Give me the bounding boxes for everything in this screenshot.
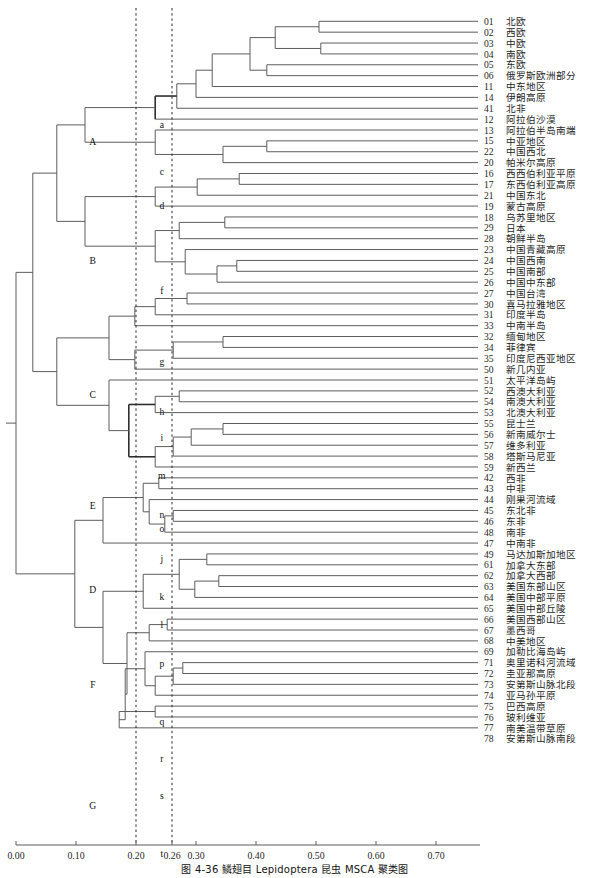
- cluster-label-q: q: [159, 716, 164, 727]
- leaf-name: 北澳大利亚: [506, 407, 556, 418]
- leaf-name: 中国西北: [506, 146, 546, 157]
- leaf-name: 帕米尔高原: [506, 157, 556, 168]
- leaf-name: 中国西南: [506, 255, 546, 266]
- axis-tick-label: 0.10: [67, 850, 84, 861]
- leaf-id: 18: [484, 212, 494, 223]
- axis-tick-label: 0.30: [187, 850, 204, 861]
- axis-tick-label: 0.40: [247, 850, 264, 861]
- leaf-id: 74: [484, 690, 494, 701]
- leaf-name: 加勒比海岛屿: [506, 646, 566, 657]
- cluster-label-h: h: [159, 406, 164, 417]
- leaf-id: 12: [484, 114, 494, 125]
- leaf-id: 75: [484, 701, 494, 712]
- axis-tick-label: 0.26: [163, 850, 180, 861]
- cluster-label-j: j: [159, 553, 163, 564]
- leaf-name: 刚果河流域: [506, 494, 556, 505]
- leaf-id: 20: [484, 157, 494, 168]
- cluster-label-C: C: [90, 389, 96, 400]
- leaf-name: 东西伯利亚高原: [506, 179, 576, 190]
- cluster-label-k: k: [159, 591, 164, 602]
- leaf-name: 西澳大利亚: [506, 386, 556, 397]
- axis-tick-label: 0.20: [127, 850, 144, 861]
- leaf-name: 南美温带草原: [506, 723, 566, 734]
- leaf-name: 维多利亚: [506, 440, 546, 451]
- dendrogram-canvas: AacBdfCghiEmnoDjklFpqrsGt 01北欧02西欧03中欧04…: [0, 0, 590, 878]
- cluster-label-g: g: [159, 356, 164, 367]
- cluster-label-l: l: [160, 619, 163, 630]
- leaf-id: 44: [484, 494, 494, 505]
- leaf-id: 27: [484, 288, 494, 299]
- leaf-name: 东北非: [506, 505, 536, 516]
- leaf-name: 马达加斯加地区: [506, 549, 576, 560]
- leaf-id: 65: [484, 603, 494, 614]
- leaf-id: 50: [484, 364, 494, 375]
- cluster-label-f: f: [160, 285, 164, 296]
- cluster-label-D: D: [89, 584, 96, 595]
- leaf-name: 西欧: [506, 27, 526, 38]
- leaf-name: 美国西部山区: [506, 614, 566, 625]
- leaf-id: 26: [484, 277, 494, 288]
- leaf-id: 51: [484, 375, 494, 386]
- leaf-name: 喜马拉雅地区: [506, 299, 566, 310]
- leaf-id: 49: [484, 549, 494, 560]
- cluster-label-a: a: [160, 119, 165, 130]
- leaf-name: 美国中部丘陵: [506, 603, 566, 614]
- leaf-id: 68: [484, 635, 494, 646]
- cluster-label-n: n: [159, 509, 164, 520]
- leaf-name: 中欧: [506, 38, 526, 49]
- cluster-label-d: d: [159, 200, 164, 211]
- leaf-id: 58: [484, 451, 494, 462]
- leaf-id: 41: [484, 103, 494, 114]
- leaf-id: 71: [484, 657, 494, 668]
- leaf-name: 中国南部: [506, 266, 546, 277]
- leaf-name: 安第斯山脉南段: [506, 733, 576, 744]
- axis-tick-label: 0.70: [427, 850, 444, 861]
- leaf-name: 加拿大西部: [506, 570, 556, 581]
- leaf-id: 05: [484, 59, 494, 70]
- axis-tick-label: 0.60: [367, 850, 384, 861]
- leaf-name: 美国中部平原: [506, 592, 566, 603]
- dendrogram-links: [6, 21, 478, 728]
- leaf-name: 塔斯马尼亚: [506, 451, 556, 462]
- leaf-id: 76: [484, 712, 494, 723]
- leaf-name: 乌苏里地区: [506, 212, 556, 223]
- leaf-id: 54: [484, 396, 494, 407]
- cluster-label-s: s: [160, 790, 164, 801]
- leaf-name: 阿拉伯半岛南端: [506, 125, 576, 136]
- leaf-name: 中东地区: [506, 81, 546, 92]
- leaf-id: 73: [484, 679, 494, 690]
- figure-caption: 图 4-36 鳞翅目 Lepidoptera 昆虫 MSCA 聚类图: [0, 861, 590, 876]
- leaf-id: 34: [484, 342, 494, 353]
- leaf-id: 13: [484, 125, 494, 136]
- cut-lines-group: [136, 8, 172, 843]
- leaf-id: 69: [484, 646, 494, 657]
- leaf-id: 21: [484, 190, 494, 201]
- leaf-id: 48: [484, 527, 494, 538]
- leaf-name: 伊朗高原: [506, 92, 546, 103]
- cluster-label-m: m: [158, 470, 166, 481]
- leaf-name: 美国东部山区: [506, 581, 566, 592]
- leaf-id: 30: [484, 299, 494, 310]
- leaf-id: 01: [484, 16, 494, 27]
- leaf-name: 亚马孙平原: [506, 690, 556, 701]
- leaf-id: 62: [484, 570, 494, 581]
- leaf-id: 28: [484, 233, 494, 244]
- leaf-id: 17: [484, 179, 494, 190]
- leaf-id: 33: [484, 320, 494, 331]
- leaf-id: 31: [484, 309, 494, 320]
- leaf-id: 16: [484, 168, 494, 179]
- leaf-name: 朝鲜半岛: [506, 233, 546, 244]
- leaf-id: 11: [484, 81, 493, 92]
- leaf-name: 南澳大利亚: [506, 396, 556, 407]
- leaf-name: 西西伯利亚平原: [506, 168, 576, 179]
- leaf-id: 24: [484, 255, 494, 266]
- cluster-label-F: F: [90, 679, 95, 690]
- leaf-id: 15: [484, 135, 494, 146]
- leaf-name: 北非: [506, 103, 526, 114]
- leaf-id: 67: [484, 625, 494, 636]
- cluster-label-p: p: [159, 658, 164, 669]
- leaf-name: 圭亚那高原: [506, 668, 556, 679]
- axis-tick-label: 0.00: [7, 850, 24, 861]
- cluster-label-G: G: [89, 800, 96, 811]
- leaf-labels-group: 01北欧02西欧03中欧04南欧05东欧06俄罗斯欧洲部分11中东地区14伊朗高…: [484, 16, 576, 745]
